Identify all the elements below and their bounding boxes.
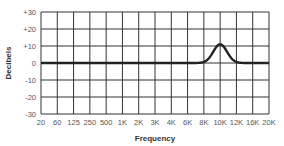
x-tick-label: 20: [37, 118, 45, 127]
x-tick-label: 3K: [150, 118, 159, 127]
x-tick-label: 1K: [118, 118, 127, 127]
x-tick-label: 4K: [167, 118, 176, 127]
x-axis-ticks: 20601252505001K2K3K4K6K8K10K12K16K20K: [37, 118, 276, 127]
y-tick-label: +10: [23, 42, 36, 51]
y-tick-label: +20: [23, 25, 36, 34]
y-axis-title: Decibels: [4, 46, 13, 79]
x-tick-label: 16K: [246, 118, 259, 127]
x-tick-label: 6K: [183, 118, 192, 127]
y-tick-label: 0: [32, 59, 36, 68]
x-axis-title: Frequency: [135, 134, 176, 143]
eq-chart: +30+20+100-10-20-30 20601252505001K2K3K4…: [0, 0, 284, 146]
x-tick-label: 60: [53, 118, 61, 127]
y-axis-ticks: +30+20+100-10-20-30: [23, 8, 36, 119]
y-tick-label: -20: [25, 93, 36, 102]
y-tick-label: -10: [25, 76, 36, 85]
x-tick-label: 8K: [199, 118, 208, 127]
y-tick-label: -30: [25, 110, 36, 119]
x-tick-label: 500: [100, 118, 113, 127]
x-tick-label: 2K: [134, 118, 143, 127]
x-tick-label: 250: [84, 118, 97, 127]
x-tick-label: 10K: [213, 118, 226, 127]
x-tick-label: 12K: [230, 118, 243, 127]
y-tick-label: +30: [23, 8, 36, 17]
x-tick-label: 125: [67, 118, 80, 127]
x-tick-label: 20K: [262, 118, 275, 127]
